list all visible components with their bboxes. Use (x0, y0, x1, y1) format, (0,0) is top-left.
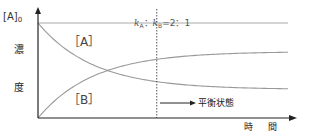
y-initial-label: [A]0 (3, 12, 22, 24)
rate-ratio-label: kA：kB=2：1 (134, 19, 190, 29)
series-line-b (38, 52, 288, 118)
y-label-char-1: 濃 (14, 45, 24, 55)
x-axis-title: 時 間 (244, 123, 283, 132)
x-axis-arrow-icon (289, 115, 297, 121)
equilibrium-label: 平衡状態 (198, 99, 234, 108)
series-label-b: ［B］ (68, 94, 100, 106)
series-line-a (38, 23, 288, 89)
series-label-a: ［A］ (68, 36, 100, 48)
y-label-char-2: 度 (14, 83, 24, 93)
y-axis-arrow-icon (35, 7, 41, 14)
equilibrium-arrow-head-icon (190, 101, 196, 106)
